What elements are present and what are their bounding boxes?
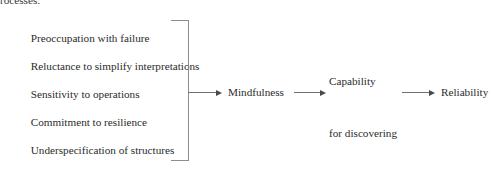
node-capability-line: Capability: [329, 73, 407, 90]
arrow-head-icon: [216, 90, 222, 96]
arrow-shaft: [188, 92, 218, 93]
bracket-bottom-stub: [171, 160, 189, 161]
grouping-bracket: [171, 20, 189, 161]
bracket-top-stub: [171, 20, 189, 21]
node-reliability: Reliability: [441, 86, 488, 99]
list-item: Reluctance to simplify interpretations: [14, 47, 184, 75]
process-list: Preoccupation with failure Reluctance to…: [14, 19, 184, 159]
node-mindfulness: Mindfulness: [228, 86, 284, 99]
process-label: Commitment to resilience: [31, 116, 147, 128]
arrow-head-icon: [429, 90, 435, 96]
process-label: Underspecification of structures: [31, 144, 175, 156]
list-item: Preoccupation with failure: [14, 19, 184, 47]
process-label: Preoccupation with failure: [31, 32, 150, 44]
node-capability: Capability for discovering and managing …: [329, 39, 407, 169]
arrow-head-icon: [320, 90, 326, 96]
caption-fragment: rocesses:: [0, 0, 40, 7]
node-capability-line: for discovering: [329, 125, 407, 142]
arrow-shaft: [402, 92, 431, 93]
list-item: Commitment to resilience: [14, 103, 184, 131]
arrow-mindfulness-to-capability: [294, 88, 327, 97]
list-item: Underspecification of structures (enacti…: [14, 131, 184, 159]
diagram-canvas: rocesses: Preoccupation with failure Rel…: [0, 0, 494, 169]
arrow-shaft: [294, 92, 322, 93]
process-label: Sensitivity to operations: [31, 88, 140, 100]
list-item: Sensitivity to operations: [14, 75, 184, 103]
arrow-processes-to-mindfulness: [188, 88, 223, 97]
arrow-capability-to-reliability: [402, 88, 436, 97]
